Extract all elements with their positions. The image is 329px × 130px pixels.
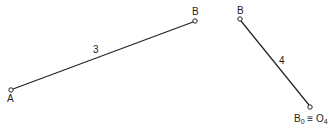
joint-b-left-icon <box>193 19 197 23</box>
label-b0-o4: B0 ≡ O4 <box>294 114 328 124</box>
joint-b-right-icon <box>238 17 242 21</box>
label-b-left: B <box>192 7 199 17</box>
label-o4-sub: 4 <box>324 118 328 125</box>
label-link-3: 3 <box>93 45 99 55</box>
linkage-diagram: A 3 B B 4 B0 ≡ O4 <box>0 0 329 130</box>
label-equiv-o: ≡ O <box>305 113 324 124</box>
link-4-line <box>241 21 309 105</box>
joint-a-icon <box>9 88 13 92</box>
label-b-right: B <box>237 6 244 16</box>
label-link-4: 4 <box>279 56 285 66</box>
joint-b0-icon <box>308 105 312 109</box>
label-b0-main: B <box>294 113 301 124</box>
link-3-line <box>13 22 193 89</box>
label-a: A <box>7 94 14 104</box>
